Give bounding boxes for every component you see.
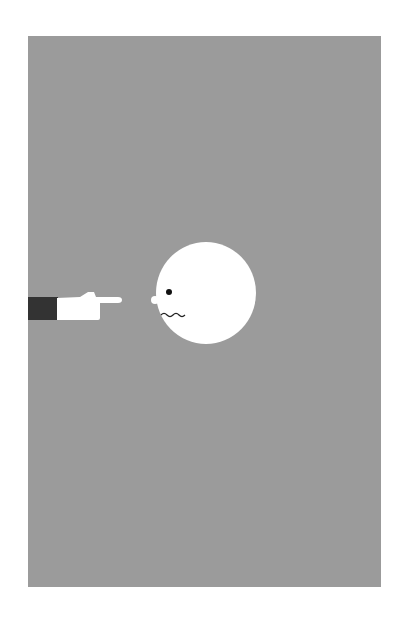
illustration xyxy=(0,0,403,619)
face-eye xyxy=(166,289,172,295)
dark-sleeve xyxy=(28,297,58,320)
